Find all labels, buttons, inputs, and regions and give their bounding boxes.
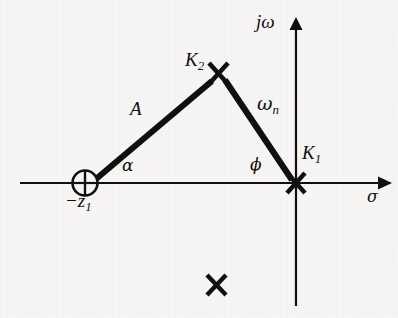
imaginary-axis-arrowhead <box>290 17 303 30</box>
real-axis-arrowhead <box>378 177 392 190</box>
label-gain-k1: K1 <box>302 143 321 166</box>
pole-upper-marker <box>209 63 228 84</box>
axis-label-sigma: σ <box>367 189 378 205</box>
axis-label-j-omega: jω <box>256 12 275 31</box>
label-zero-neg-z1: −z1 <box>65 191 92 214</box>
pole-conjugate-marker <box>207 275 226 295</box>
label-omega-n: ωn <box>257 94 279 117</box>
vector-a-line <box>96 81 212 179</box>
label-vector-a: A <box>130 99 142 118</box>
figure-canvas: jω K2 ωn A K1 α ϕ σ −z1 <box>0 0 398 318</box>
diagram-vector-graphics <box>0 0 398 318</box>
imaginary-axis-group <box>290 17 303 306</box>
label-angle-phi: ϕ <box>250 156 262 173</box>
label-angle-alpha: α <box>122 157 133 174</box>
label-gain-k2: K2 <box>185 50 204 73</box>
